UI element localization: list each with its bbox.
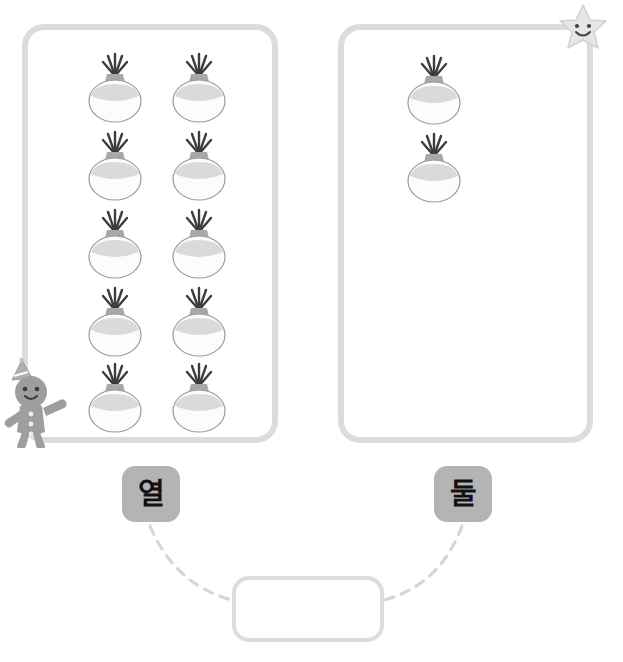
onion-item xyxy=(84,362,146,434)
onion-item xyxy=(84,130,146,202)
word-chip-two[interactable]: 둘 xyxy=(434,466,492,522)
answer-drop-slot[interactable] xyxy=(232,576,384,642)
onion-item xyxy=(168,208,230,280)
word-chip-two-label: 둘 xyxy=(450,480,477,509)
word-chip-ten[interactable]: 열 xyxy=(122,466,180,522)
onion-item xyxy=(168,130,230,202)
onion-item xyxy=(84,52,146,124)
onion-item xyxy=(168,286,230,358)
onion-item xyxy=(168,362,230,434)
onion-item xyxy=(84,286,146,358)
star-mascot-icon xyxy=(557,2,609,54)
connector-right xyxy=(384,526,462,600)
onion-item xyxy=(168,52,230,124)
onion-item xyxy=(403,54,465,126)
onion-item xyxy=(84,208,146,280)
connector-left xyxy=(150,526,232,600)
group-box-right[interactable] xyxy=(338,24,593,443)
onion-item xyxy=(403,132,465,204)
gingerbread-mascot-icon xyxy=(2,358,68,448)
word-chip-ten-label: 열 xyxy=(138,480,165,509)
header-ghost-text xyxy=(0,0,623,5)
worksheet-canvas: 열 둘 xyxy=(0,0,623,662)
